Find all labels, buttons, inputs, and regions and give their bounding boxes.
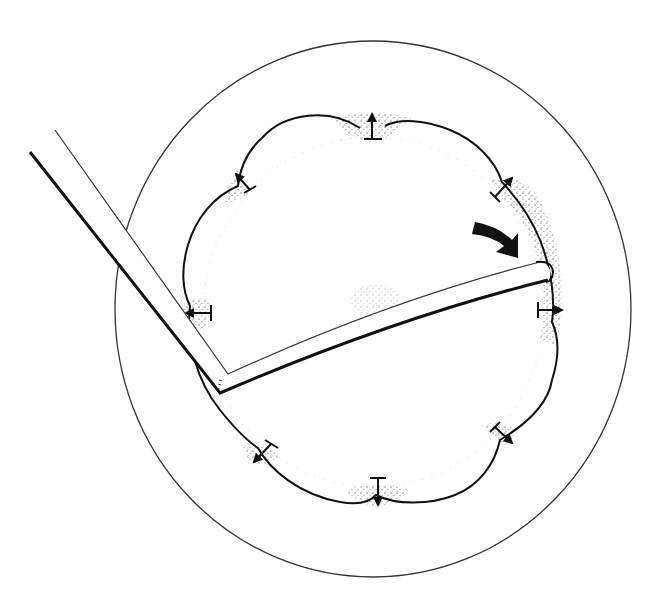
probe-body xyxy=(30,130,550,393)
bent-probe-tool xyxy=(30,130,553,393)
diagram-stage xyxy=(0,0,662,601)
technical-illustration xyxy=(0,0,662,601)
rotation-arrow-icon xyxy=(472,222,518,258)
